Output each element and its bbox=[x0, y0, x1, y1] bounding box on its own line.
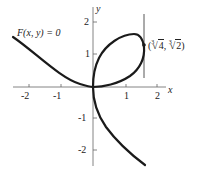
y-tick-label-neg1: -1 bbox=[78, 113, 86, 123]
y-tick-label-1: 1 bbox=[85, 49, 90, 59]
point-label-close-paren: ) bbox=[181, 40, 184, 51]
y-axis-label: y bbox=[96, 4, 100, 14]
curve-branch-left-tail-loop-bottom bbox=[13, 37, 144, 87]
tangent-point-label: (3√4, 3√2) bbox=[148, 41, 185, 51]
tangent-point-marker bbox=[142, 43, 146, 47]
y-tick-label-2: 2 bbox=[84, 17, 89, 27]
x-tick-label-neg1: -1 bbox=[53, 91, 61, 101]
curve-branch-loop-top-right-tail bbox=[93, 34, 145, 165]
y-root-index: 3 bbox=[169, 39, 172, 45]
x-tick-label-2: 2 bbox=[155, 91, 160, 101]
y-tick-label-neg2: -2 bbox=[78, 145, 86, 155]
equation-label: F(x, y) = 0 bbox=[17, 28, 60, 38]
x-root-index: 3 bbox=[151, 39, 154, 45]
x-axis-label: x bbox=[168, 85, 172, 95]
x-tick-label-neg2: -2 bbox=[21, 91, 29, 101]
x-tick-label-1: 1 bbox=[124, 91, 129, 101]
